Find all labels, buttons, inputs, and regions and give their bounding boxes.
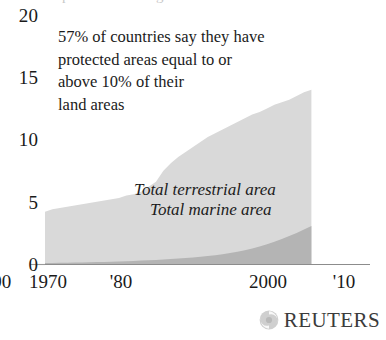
plot-area: 20 15 10 5 0 57% of countries say they h… — [0, 0, 386, 300]
y-tick-label-20: 20 — [4, 6, 38, 25]
annotation-line-3: above 10% of their — [58, 71, 318, 94]
x-tick-label-1980: '80 — [110, 272, 132, 292]
y-tick-label-15: 15 — [4, 68, 38, 87]
x-tick-label-1970: 1970 — [29, 272, 67, 292]
series-label-marine: Total marine area — [150, 200, 272, 220]
reuters-credit: REUTERS — [258, 306, 380, 334]
reuters-wordmark: REUTERS — [284, 310, 380, 331]
series-label-terrestrial: Total terrestrial area — [134, 180, 276, 200]
annotation-line-1: 57% of countries say they have — [58, 26, 318, 49]
x-tick-label-2000: 2000 — [249, 272, 287, 292]
chart-annotation: 57% of countries say they have protected… — [58, 26, 318, 116]
x-tick-label-1990: '90 — [0, 272, 11, 292]
reuters-area-chart-figure: protected areas growth 20 15 10 5 0 57% … — [0, 0, 386, 340]
reuters-swirl-logo — [258, 309, 280, 331]
annotation-line-2: protected areas equal to or — [58, 49, 318, 72]
y-tick-label-5: 5 — [4, 193, 38, 212]
y-tick-label-10: 10 — [4, 130, 38, 149]
y-axis: 20 15 10 5 0 — [0, 0, 38, 300]
x-axis: 1970 '80 '90 2000 '10 — [0, 272, 386, 298]
annotation-line-4: land areas — [58, 94, 318, 117]
x-tick-label-2010: '10 — [333, 272, 355, 292]
